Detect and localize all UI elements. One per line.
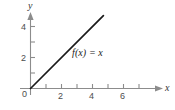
x-axis-arrow-icon [155, 85, 163, 91]
y-axis-ticks [31, 27, 36, 74]
x-tick-label-4: 4 [89, 91, 94, 101]
x-tick-label-2: 2 [58, 91, 63, 101]
origin-label: 0 [22, 89, 27, 99]
y-tick-label-2: 2 [21, 53, 26, 63]
y-axis-label: y [28, 1, 32, 11]
function-graph-figure: 0 2 4 6 2 4 x y f(x) = x [0, 0, 175, 110]
x-axis-ticks [46, 84, 139, 89]
y-axis [27, 12, 33, 95]
x-axis-label: x [165, 83, 169, 93]
y-tick-label-4: 4 [21, 22, 26, 32]
x-tick-label-6: 6 [120, 91, 125, 101]
function-annotation-label: f(x) = x [72, 47, 103, 58]
y-axis-arrow-icon [27, 12, 33, 20]
